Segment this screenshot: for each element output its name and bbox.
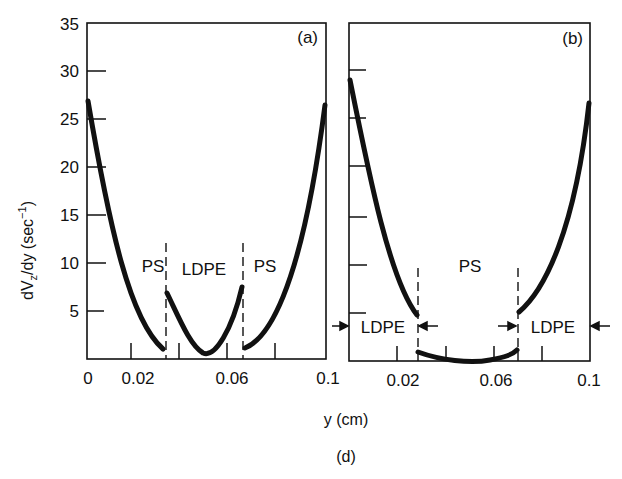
y-axis-title: dVz/dy (sec−1)	[16, 201, 39, 300]
panel-b: LDPE PS LDPE (b) 0.02 0.06 0.1	[332, 23, 610, 390]
arrow-left-icon	[419, 322, 427, 330]
panel-a-region-ldpe: LDPE	[182, 260, 226, 279]
panel-a-region-ps-right: PS	[254, 257, 277, 276]
y-tick-label: 35	[60, 15, 79, 34]
panel-a-x-tick-label: 0.02	[121, 369, 154, 388]
panel-b-y-ticks	[349, 70, 367, 313]
panel-b-x-tick-label: 0.02	[386, 371, 419, 390]
panel-a-curve-ps-left	[88, 101, 163, 349]
figure-caption: (d)	[336, 448, 356, 465]
panel-a-frame	[87, 23, 326, 359]
arrow-right-icon	[340, 322, 348, 330]
x-axis-title: y (cm)	[324, 411, 368, 428]
panel-b-interface-lines	[418, 268, 518, 361]
panel-b-curve-ldpe-left	[350, 80, 417, 315]
y-tick-label: 30	[60, 62, 79, 81]
panel-a-curves	[88, 101, 325, 354]
panel-a-region-ps-left: PS	[142, 257, 165, 276]
arrow-right-icon	[508, 322, 516, 330]
panel-b-x-tick-label: 0.1	[577, 371, 601, 390]
panel-b-curve-ps-core	[418, 350, 517, 362]
y-tick-label: 10	[60, 254, 79, 273]
panel-a-curve-ps-right	[245, 105, 325, 348]
y-tick-label: 25	[60, 110, 79, 129]
y-tick-label: 15	[60, 206, 79, 225]
panel-b-curve-ldpe-right	[519, 103, 589, 312]
panel-a-label: (a)	[297, 28, 318, 47]
panel-a-x-tick-label: 0	[83, 369, 92, 388]
y-tick-label: 20	[60, 158, 79, 177]
panel-a-x-tick-label: 0.1	[316, 369, 340, 388]
panel-b-label: (b)	[562, 29, 583, 48]
panel-a: PS LDPE PS (a) 0 0.02 0.06 0.1	[83, 23, 340, 388]
y-tick-labels: 5 10 15 20 25 30 35	[60, 15, 79, 321]
y-tick-label: 5	[70, 302, 79, 321]
panel-b-frame	[349, 23, 590, 361]
panel-b-region-ps: PS	[459, 257, 482, 276]
panel-a-x-tick-label: 0.06	[215, 369, 248, 388]
panel-b-region-ldpe-left: LDPE	[361, 318, 405, 337]
panel-b-x-tick-label: 0.06	[479, 371, 512, 390]
arrow-left-icon	[591, 322, 599, 330]
panel-b-region-ldpe-right: LDPE	[531, 318, 575, 337]
figure-canvas: dVz/dy (sec−1) 5 10 15 20 25 30 35	[0, 0, 622, 479]
